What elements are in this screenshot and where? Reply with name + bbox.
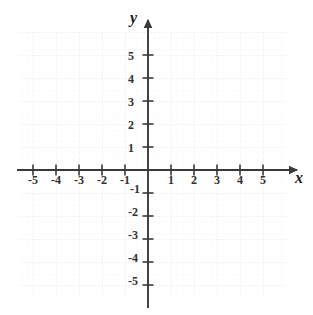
- x-tick-label: -3: [73, 174, 85, 186]
- graph-canvas: [0, 0, 313, 315]
- x-axis-label: x: [295, 170, 303, 186]
- y-tick-label: 4: [126, 73, 136, 85]
- coordinate-plane-figure: -5 -4 -3 -2 -1 1 2 3 4 5 5 4 3 2 1 -1 -2…: [0, 0, 313, 315]
- y-tick-label: -4: [124, 252, 142, 264]
- x-tick-label: 2: [190, 174, 198, 186]
- y-axis-label: y: [130, 10, 137, 26]
- x-tick-label: 5: [259, 174, 267, 186]
- y-tick-label: 2: [126, 119, 136, 131]
- y-tick-label: -5: [124, 275, 142, 287]
- x-tick-label: 3: [213, 174, 221, 186]
- grid-major: [19, 31, 286, 296]
- x-tick-label: -4: [50, 174, 62, 186]
- y-tick-label: 1: [126, 142, 136, 154]
- y-tick-label: 5: [126, 50, 136, 62]
- y-tick-label: -2: [124, 206, 142, 218]
- x-tick-label: -2: [96, 174, 108, 186]
- x-tick-label: 1: [167, 174, 175, 186]
- x-tick-label: -5: [27, 174, 39, 186]
- x-tick-label: 4: [236, 174, 244, 186]
- y-tick-label: -3: [124, 229, 142, 241]
- y-tick-label: 3: [126, 96, 136, 108]
- y-tick-label: -1: [128, 183, 142, 195]
